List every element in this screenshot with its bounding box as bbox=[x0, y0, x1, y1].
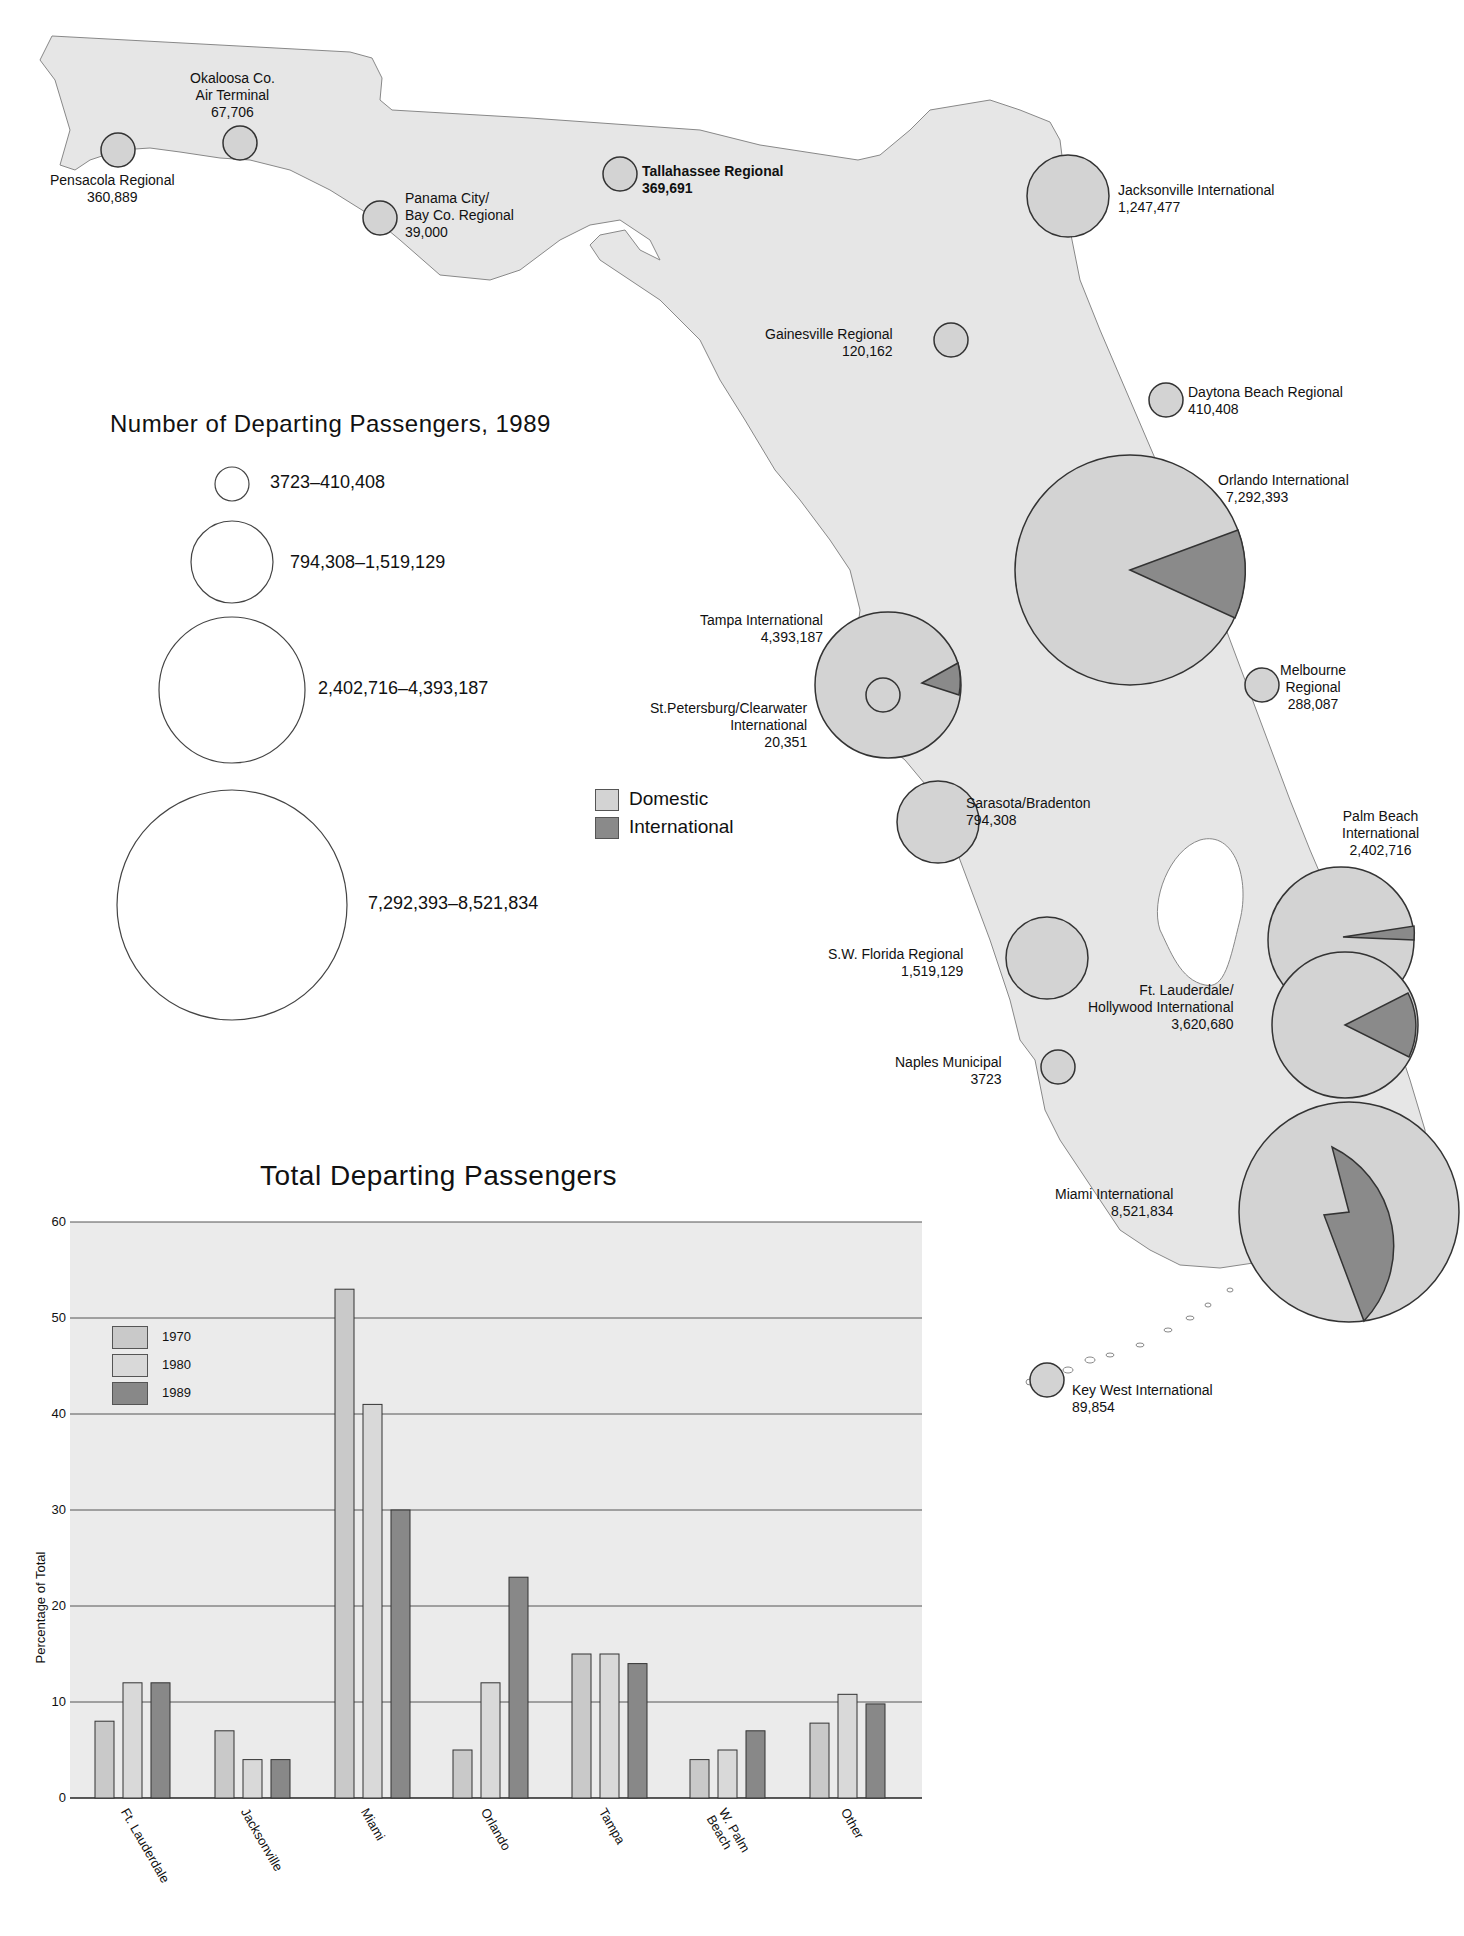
bar bbox=[123, 1683, 142, 1798]
bar bbox=[243, 1760, 262, 1798]
airport-label-tampa: Tampa International 4,393,187 bbox=[700, 612, 823, 646]
airport-label-tallahassee: Tallahassee Regional 369,691 bbox=[642, 163, 783, 197]
florida-map bbox=[0, 0, 1464, 1936]
y-tick-50: 50 bbox=[36, 1310, 66, 1325]
airport-label-miami: Miami International 8,521,834 bbox=[1055, 1186, 1173, 1220]
airport-label-melbourne: Melbourne Regional 288,087 bbox=[1280, 662, 1346, 713]
chart-title: Total Departing Passengers bbox=[260, 1160, 617, 1192]
chart-legend-1989: 1989 bbox=[112, 1382, 191, 1405]
bar bbox=[391, 1510, 410, 1798]
bar bbox=[746, 1731, 765, 1798]
airport-label-pensacola: Pensacola Regional 360,889 bbox=[50, 172, 175, 206]
domestic-swatch bbox=[595, 789, 619, 811]
y-tick-0: 0 bbox=[36, 1790, 66, 1805]
bar bbox=[95, 1721, 114, 1798]
bar bbox=[363, 1404, 382, 1798]
y-tick-30: 30 bbox=[36, 1502, 66, 1517]
bar bbox=[600, 1654, 619, 1798]
y-tick-10: 10 bbox=[36, 1694, 66, 1709]
chart-legend-1980: 1980 bbox=[112, 1354, 191, 1377]
airport-label-orlando: Orlando International 7,292,393 bbox=[1218, 472, 1349, 506]
size-legend-class-4: 7,292,393–8,521,834 bbox=[368, 893, 538, 914]
bar bbox=[572, 1654, 591, 1798]
airport-label-ft-lauderdale: Ft. Lauderdale/ Hollywood International … bbox=[1088, 982, 1234, 1033]
international-swatch bbox=[595, 817, 619, 839]
airport-label-st-petersburg: St.Petersburg/Clearwater International 2… bbox=[650, 700, 807, 751]
size-legend-class-1: 3723–410,408 bbox=[270, 472, 385, 493]
size-legend-class-3: 2,402,716–4,393,187 bbox=[318, 678, 488, 699]
bar bbox=[271, 1760, 290, 1798]
airport-label-key-west: Key West International 89,854 bbox=[1072, 1382, 1213, 1416]
bar bbox=[335, 1289, 354, 1798]
chart-legend-1970: 1970 bbox=[112, 1326, 191, 1349]
airport-label-palm-beach: Palm Beach International 2,402,716 bbox=[1342, 808, 1419, 859]
bar bbox=[690, 1760, 709, 1798]
airport-label-sarasota: Sarasota/Bradenton 794,308 bbox=[966, 795, 1091, 829]
size-legend-title: Number of Departing Passengers, 1989 bbox=[110, 410, 551, 438]
airport-label-naples: Naples Municipal 3723 bbox=[895, 1054, 1002, 1088]
y-axis-label: Percentage of Total bbox=[33, 1538, 48, 1678]
bar bbox=[151, 1683, 170, 1798]
bar bbox=[509, 1577, 528, 1798]
size-legend-circles bbox=[117, 467, 347, 1020]
bar bbox=[718, 1750, 737, 1798]
airport-label-daytona: Daytona Beach Regional 410,408 bbox=[1188, 384, 1343, 418]
airport-label-okaloosa: Okaloosa Co. Air Terminal 67,706 bbox=[190, 70, 275, 121]
airport-label-panama-city: Panama City/ Bay Co. Regional 39,000 bbox=[405, 190, 514, 241]
bar bbox=[481, 1683, 500, 1798]
legend-domestic: Domestic bbox=[595, 785, 734, 813]
type-legend: Domestic International bbox=[595, 785, 734, 841]
airport-label-jacksonville: Jacksonville International 1,247,477 bbox=[1118, 182, 1274, 216]
bar bbox=[838, 1694, 857, 1798]
bar bbox=[215, 1731, 234, 1798]
airport-label-sw-florida: S.W. Florida Regional 1,519,129 bbox=[828, 946, 963, 980]
size-legend-class-2: 794,308–1,519,129 bbox=[290, 552, 445, 573]
bar bbox=[453, 1750, 472, 1798]
airport-label-gainesville: Gainesville Regional 120,162 bbox=[765, 326, 893, 360]
y-tick-60: 60 bbox=[36, 1214, 66, 1229]
y-tick-40: 40 bbox=[36, 1406, 66, 1421]
bar bbox=[810, 1723, 829, 1798]
bar bbox=[628, 1664, 647, 1798]
legend-international: International bbox=[595, 813, 734, 841]
bar bbox=[866, 1704, 885, 1798]
